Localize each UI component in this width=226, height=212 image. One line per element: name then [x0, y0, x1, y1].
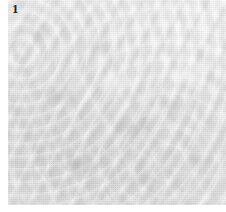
figure-panel: 1	[0, 0, 226, 212]
grayscale-micrograph-image	[8, 0, 226, 205]
figure-number-label: 1	[12, 2, 19, 15]
texture-haze-layer	[8, 0, 226, 205]
